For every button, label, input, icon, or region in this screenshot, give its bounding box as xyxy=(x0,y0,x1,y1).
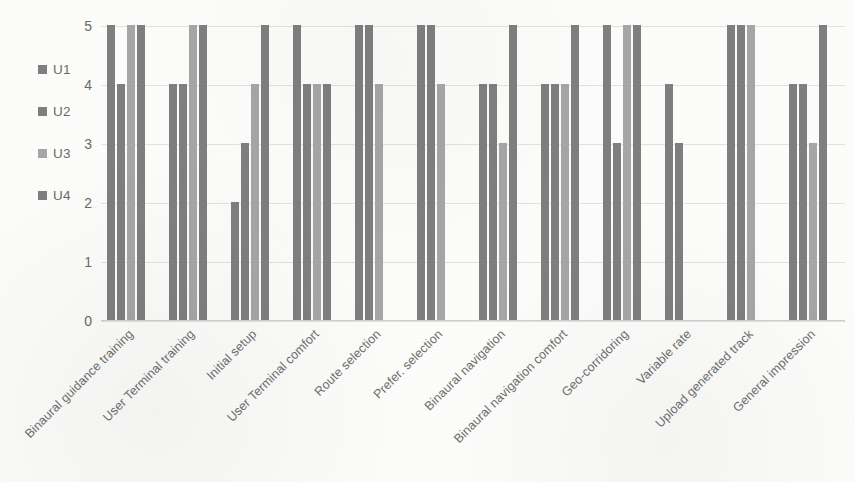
bar-u2 xyxy=(427,25,435,320)
bar-u3 xyxy=(623,25,631,320)
plot-area: 012345 xyxy=(101,26,845,321)
y-axis-tick-label: 5 xyxy=(84,18,92,34)
y-axis-tick-label: 2 xyxy=(84,195,92,211)
bar-u3 xyxy=(313,84,321,320)
bar-group xyxy=(659,26,721,320)
bar-u2 xyxy=(675,143,683,320)
bar-u4 xyxy=(323,84,331,320)
bar-u3 xyxy=(499,143,507,320)
bar-u1 xyxy=(603,25,611,320)
bar-u1 xyxy=(727,25,735,320)
bar-group xyxy=(225,26,287,320)
bar-u3 xyxy=(561,84,569,320)
gridline xyxy=(101,321,845,322)
bar-group xyxy=(287,26,349,320)
bar-u3 xyxy=(375,84,383,320)
legend-label-u2: U2 xyxy=(53,104,71,119)
bar-u3 xyxy=(437,84,445,320)
legend-item-u1: U1 xyxy=(38,62,71,77)
y-axis-tick-label: 3 xyxy=(84,136,92,152)
bar-group xyxy=(721,26,783,320)
bar-group xyxy=(163,26,225,320)
y-axis-tick-label: 4 xyxy=(84,77,92,93)
legend-label-u4: U4 xyxy=(53,188,71,203)
bar-u2 xyxy=(737,25,745,320)
legend-label-u1: U1 xyxy=(53,62,71,77)
bar-u2 xyxy=(179,84,187,320)
legend-label-u3: U3 xyxy=(53,146,71,161)
bar-group xyxy=(473,26,535,320)
y-axis-tick-label: 0 xyxy=(84,313,92,329)
bar-group xyxy=(535,26,597,320)
bar-u2 xyxy=(489,84,497,320)
bar-u2 xyxy=(303,84,311,320)
bar-u2 xyxy=(799,84,807,320)
bar-u1 xyxy=(789,84,797,320)
legend-item-u4: U4 xyxy=(38,188,71,203)
legend-swatch-u3 xyxy=(38,149,47,158)
bar-u3 xyxy=(747,25,755,320)
bar-group xyxy=(411,26,473,320)
bar-u2 xyxy=(613,143,621,320)
bar-group xyxy=(783,26,845,320)
bar-u2 xyxy=(241,143,249,320)
bar-u1 xyxy=(479,84,487,320)
legend-item-u3: U3 xyxy=(38,146,71,161)
legend-swatch-u1 xyxy=(38,65,47,74)
bar-u1 xyxy=(665,84,673,320)
x-axis-labels: Binaural guidance trainingUser Terminal … xyxy=(101,323,845,473)
bar-u1 xyxy=(231,202,239,320)
bar-u1 xyxy=(293,25,301,320)
bar-u3 xyxy=(251,84,259,320)
bar-groups xyxy=(101,26,845,320)
bar-u3 xyxy=(127,25,135,320)
bar-u3 xyxy=(809,143,817,320)
bar-u4 xyxy=(819,25,827,320)
bar-u1 xyxy=(169,84,177,320)
bar-u2 xyxy=(117,84,125,320)
bar-u2 xyxy=(551,84,559,320)
legend-swatch-u2 xyxy=(38,107,47,116)
bar-group xyxy=(349,26,411,320)
bar-u1 xyxy=(541,84,549,320)
bar-u4 xyxy=(261,25,269,320)
x-axis-label: Variable rate xyxy=(633,327,693,387)
x-axis-label: Initial setup xyxy=(204,327,260,383)
bar-group xyxy=(597,26,659,320)
y-axis-tick-label: 1 xyxy=(84,254,92,270)
bar-u3 xyxy=(189,25,197,320)
bar-u4 xyxy=(571,25,579,320)
chart-legend: U1 U2 U3 U4 xyxy=(38,62,71,203)
legend-swatch-u4 xyxy=(38,191,47,200)
bar-u4 xyxy=(137,25,145,320)
x-axis-label: Binaural navigation comfort xyxy=(451,327,570,446)
x-axis-line xyxy=(101,320,845,321)
bar-u1 xyxy=(355,25,363,320)
bar-u2 xyxy=(365,25,373,320)
bar-u1 xyxy=(417,25,425,320)
x-axis-label: Geo-corridoring xyxy=(559,327,631,399)
bar-u4 xyxy=(633,25,641,320)
bar-chart: U1 U2 U3 U4 012345 Binaural guidance tra… xyxy=(0,0,855,482)
x-axis-label: Binaural guidance training xyxy=(22,327,136,441)
bar-group xyxy=(101,26,163,320)
legend-item-u2: U2 xyxy=(38,104,71,119)
bar-u1 xyxy=(107,25,115,320)
bar-u4 xyxy=(199,25,207,320)
bar-u4 xyxy=(509,25,517,320)
